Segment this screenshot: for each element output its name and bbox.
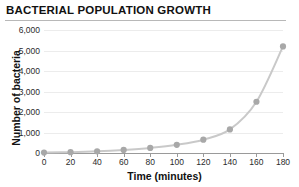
data-point xyxy=(174,142,180,148)
data-point xyxy=(41,149,47,155)
data-point xyxy=(147,145,153,151)
data-point xyxy=(253,99,259,105)
chart-figure: BACTERIAL POPULATION GROWTH 01,0002,0003… xyxy=(0,0,299,187)
data-point xyxy=(94,148,100,154)
data-point xyxy=(280,43,286,49)
data-point xyxy=(67,149,73,155)
y-axis-title: Number of bacteria xyxy=(10,38,22,158)
data-series xyxy=(0,0,299,187)
x-axis-title: Time (minutes) xyxy=(0,170,299,182)
series-markers xyxy=(41,43,286,155)
data-point xyxy=(121,147,127,153)
series-line xyxy=(44,46,283,152)
data-point xyxy=(200,137,206,143)
data-point xyxy=(227,126,233,132)
